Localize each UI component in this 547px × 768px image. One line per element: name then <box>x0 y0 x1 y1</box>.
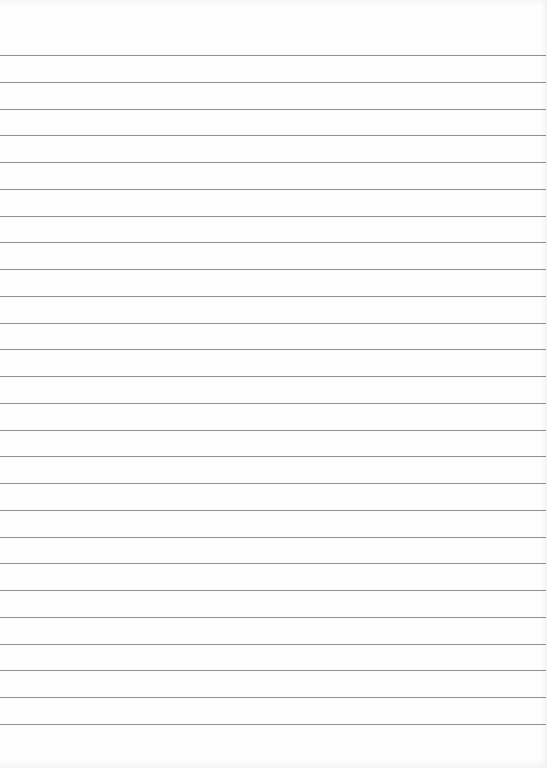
ruled-line <box>0 537 546 538</box>
ruled-line <box>0 135 546 136</box>
ruled-line <box>0 644 546 645</box>
ruled-line <box>0 162 546 163</box>
ruled-line <box>0 456 546 457</box>
ruled-line <box>0 403 546 404</box>
ruled-line <box>0 216 546 217</box>
ruled-line <box>0 430 546 431</box>
ruled-line <box>0 269 546 270</box>
ruled-line <box>0 82 546 83</box>
ruled-line <box>0 563 546 564</box>
ruled-line <box>0 349 546 350</box>
paper-edge <box>541 0 547 768</box>
ruled-line <box>0 323 546 324</box>
lined-paper-sheet <box>0 0 547 768</box>
ruled-line <box>0 296 546 297</box>
ruled-line <box>0 483 546 484</box>
ruled-line <box>0 55 546 56</box>
ruled-line <box>0 617 546 618</box>
ruled-line <box>0 109 546 110</box>
ruled-line <box>0 590 546 591</box>
ruled-line <box>0 376 546 377</box>
ruled-line <box>0 670 546 671</box>
ruled-line <box>0 189 546 190</box>
ruled-line <box>0 724 546 725</box>
ruled-line <box>0 510 546 511</box>
ruled-line <box>0 242 546 243</box>
ruled-line <box>0 697 546 698</box>
